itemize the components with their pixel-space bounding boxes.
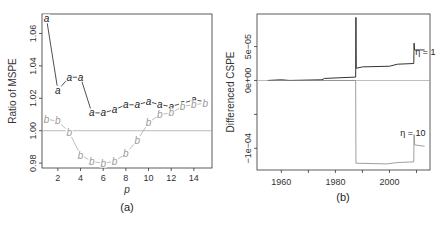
series-b-point: b [180, 101, 186, 112]
series-a-point: a [146, 96, 152, 107]
series-b-point: b [123, 148, 129, 159]
panel-b-xtick-label: 2000 [379, 177, 399, 187]
panel-b-xtick-label: 1980 [325, 177, 345, 187]
panel-a-label: (a) [120, 201, 133, 213]
panel-b-ytick-label: −1e−04 [243, 133, 253, 164]
panel-a-ytick-label: 1.00 [28, 122, 38, 140]
series-b-point: b [44, 114, 50, 125]
panel-b-plot-frame [257, 14, 430, 170]
panel-a-xlabel: p [123, 184, 130, 195]
panel-b-ytick-label: 0e+00 [243, 68, 253, 93]
panel-b: 196019802000 5e−050e+00−1e−04 η = 1 η = … [225, 14, 435, 203]
series-b-point: b [89, 156, 95, 167]
panel-a-xtick-label: 6 [101, 173, 106, 183]
series-a-point: a [134, 99, 140, 110]
panel-b-label: (b) [336, 191, 349, 203]
annotation-eta-1: η = 1 [415, 47, 435, 57]
panel-a-xtick-label: 14 [189, 173, 199, 183]
series-b-point: b [78, 150, 84, 161]
panel-a-ylabel: Ratio of MSPE [7, 58, 18, 124]
series-b-point: b [134, 135, 140, 146]
panel-a-xtick-label: 4 [78, 173, 83, 183]
panel-a-plot-frame [42, 14, 212, 168]
figure: 2468101214 0.981.001.021.041.06 aaaaaaaa… [0, 0, 441, 229]
panel-b-ytick-label: 5e−05 [243, 34, 253, 59]
series-b-point: b [112, 156, 118, 167]
panel-a-ytick-label: 1.06 [28, 25, 38, 43]
panel-a: 2468101214 0.981.001.021.041.06 aaaaaaaa… [7, 13, 212, 213]
series-a-point: a [123, 99, 129, 110]
series-a-point: a [66, 72, 72, 83]
series-eta-10-line [268, 80, 425, 163]
series-eta-1-line [268, 17, 425, 80]
series-a-point: a [89, 107, 95, 118]
series-b-point: b [157, 109, 163, 120]
series-b-point: b [146, 117, 152, 128]
series-b-point: b [55, 115, 61, 126]
series-a-point: a [112, 104, 118, 115]
panel-a-ytick-label: 1.04 [28, 57, 38, 75]
series-a-point: a [100, 107, 106, 118]
panel-a-xtick-label: 2 [55, 173, 60, 183]
series-a-point: a [78, 72, 84, 83]
series-a-point: a [55, 85, 61, 96]
series-b-point: b [202, 98, 208, 109]
panel-b-xtick-label: 1960 [271, 177, 291, 187]
series-b-point: b [100, 158, 106, 169]
panel-a-xtick-label: 10 [144, 173, 154, 183]
panel-b-ylabel: Differenced CSPE [225, 51, 236, 132]
panel-a-ytick-label: 0.98 [28, 154, 38, 172]
series-a-point: a [44, 13, 50, 24]
panel-a-xtick-label: 12 [166, 173, 176, 183]
series-b-point: b [66, 127, 72, 138]
annotation-eta-10: η = 10 [400, 128, 425, 138]
series-b-point: b [168, 107, 174, 118]
panel-a-xtick-label: 8 [123, 173, 128, 183]
panel-a-ytick-label: 1.02 [28, 90, 38, 108]
series-b-point: b [191, 99, 197, 110]
